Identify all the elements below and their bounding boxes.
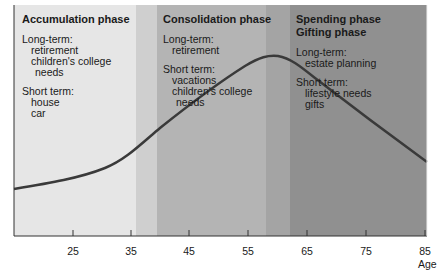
goal-item: retirement [163, 45, 271, 56]
x-ticks [73, 230, 425, 236]
goal-item: car [22, 108, 130, 119]
phase-title: Accumulation phase [22, 13, 130, 26]
consolidation-phase-text: Consolidation phase Long-term: retiremen… [163, 13, 271, 108]
tick-label-45: 45 [183, 245, 195, 257]
phase-title: Spending phase [296, 13, 381, 26]
accumulation-phase-text: Accumulation phase Long-term: retirement… [22, 13, 130, 119]
tick-label-55: 55 [242, 245, 254, 257]
tick-label-65: 65 [301, 245, 313, 257]
tick-label-25: 25 [67, 245, 79, 257]
goal-item: gifts [296, 99, 381, 110]
spending-phase-text: Spending phase Gifting phase Long-term: … [296, 13, 381, 110]
goal-item: needs [163, 97, 271, 108]
goal-item: needs [22, 67, 130, 78]
phase-title: Consolidation phase [163, 13, 271, 26]
x-axis-title: Age [418, 258, 437, 270]
tick-label-85: 85 [419, 245, 431, 257]
phase-title-2: Gifting phase [296, 26, 381, 39]
tick-label-35: 35 [125, 245, 137, 257]
goal-item: estate planning [296, 58, 381, 69]
tick-label-75: 75 [360, 245, 372, 257]
